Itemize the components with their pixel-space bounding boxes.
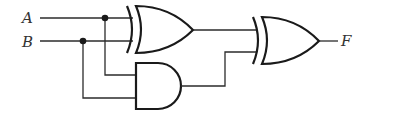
input-label-a: A <box>20 9 33 27</box>
junction-dot-b <box>80 38 87 45</box>
wire-and-out <box>181 52 257 86</box>
output-label-f: F <box>340 32 352 50</box>
xor-gate-2 <box>253 17 319 64</box>
input-label-b: B <box>21 33 33 51</box>
logic-circuit-diagram: A B F <box>0 0 397 113</box>
xor-gate-1 <box>127 6 193 53</box>
and-gate <box>136 63 181 109</box>
junction-dot-a <box>102 15 109 22</box>
